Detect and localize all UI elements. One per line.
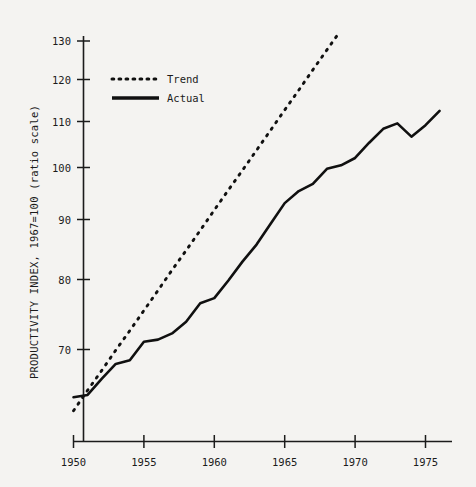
x-tick-label-1970: 1970 xyxy=(342,456,367,468)
y-tick-130: 130 xyxy=(52,35,90,47)
y-axis-ticks: 130 120 110 100 90 80 xyxy=(52,35,90,356)
legend-label-actual: Actual xyxy=(167,92,205,104)
legend-item-actual[interactable]: Actual xyxy=(112,92,205,104)
legend-item-trend[interactable]: Trend xyxy=(112,73,199,85)
x-tick-1955: 1955 xyxy=(131,435,156,468)
x-tick-1960: 1960 xyxy=(202,435,227,468)
y-tick-80: 80 xyxy=(58,274,90,286)
y-tick-100: 100 xyxy=(52,162,90,174)
legend-label-trend: Trend xyxy=(167,73,199,85)
y-tick-label-110: 110 xyxy=(52,116,71,128)
y-tick-label-100: 100 xyxy=(52,162,71,174)
productivity-index-chart: PRODUCTIVITY INDEX, 1967=100 (ratio scal… xyxy=(0,0,476,487)
x-tick-label-1965: 1965 xyxy=(272,456,297,468)
y-tick-70: 70 xyxy=(58,344,90,356)
x-tick-label-1955: 1955 xyxy=(131,456,156,468)
y-tick-label-80: 80 xyxy=(58,274,71,286)
y-tick-120: 120 xyxy=(52,74,90,86)
x-tick-1970: 1970 xyxy=(342,435,367,468)
x-tick-1975: 1975 xyxy=(413,435,438,468)
y-tick-90: 90 xyxy=(58,214,90,226)
x-tick-label-1975: 1975 xyxy=(413,456,438,468)
y-tick-label-120: 120 xyxy=(52,74,71,86)
x-tick-label-1950: 1950 xyxy=(61,456,86,468)
y-tick-label-90: 90 xyxy=(58,214,71,226)
y-tick-110: 110 xyxy=(52,116,90,128)
chart-legend: Trend Actual xyxy=(112,73,205,104)
series-line-trend xyxy=(74,36,337,411)
x-tick-1950: 1950 xyxy=(61,435,86,468)
series-line-actual xyxy=(74,111,440,397)
y-tick-label-130: 130 xyxy=(52,35,71,47)
x-axis-ticks: 1950 1955 1960 1965 1970 1975 xyxy=(61,435,438,468)
y-tick-label-70: 70 xyxy=(58,344,71,356)
chart-container: PRODUCTIVITY INDEX, 1967=100 (ratio scal… xyxy=(0,0,476,487)
x-tick-label-1960: 1960 xyxy=(202,456,227,468)
x-tick-1965: 1965 xyxy=(272,435,297,468)
y-axis-title: PRODUCTIVITY INDEX, 1967=100 (ratio scal… xyxy=(28,105,40,379)
